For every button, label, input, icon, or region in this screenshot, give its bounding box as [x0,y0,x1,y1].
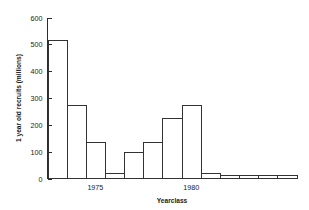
y-tick-label: 600 [31,14,43,23]
x-axis-title: Yearclass [157,197,188,204]
x-tick-label: 1975 [87,183,103,192]
y-tick-label: 200 [31,121,43,130]
bar-chart: 0100200300400500600 19751980 Yearclass 1… [0,0,309,210]
chart-figure: 0100200300400500600 19751980 Yearclass 1… [0,0,309,210]
y-tick-label: 500 [31,40,43,49]
x-tick-label: 1980 [183,183,199,192]
y-axis-title: 1 year old recruits (millions) [15,54,23,142]
y-tick-label: 300 [31,94,43,103]
y-tick-label: 100 [31,148,43,157]
y-tick-label: 400 [31,67,43,76]
y-tick-label: 0 [39,175,43,184]
